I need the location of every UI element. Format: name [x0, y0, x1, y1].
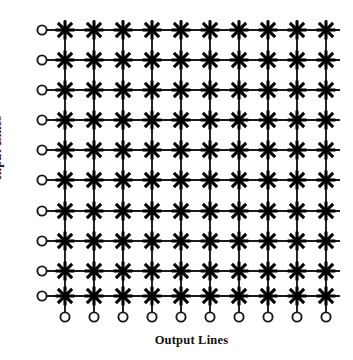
crosspoint-r7-c3[interactable] [114, 202, 133, 221]
crosspoint-r5-c2[interactable] [85, 141, 104, 160]
crosspoint-r7-c6[interactable] [201, 202, 220, 221]
crosspoint-r2-c10[interactable] [317, 51, 336, 70]
crosspoint-r9-c6[interactable] [201, 262, 220, 281]
input-terminal-2[interactable] [37, 55, 46, 64]
crosspoint-r2-c2[interactable] [85, 51, 104, 70]
crosspoint-r2-c7[interactable] [230, 51, 249, 70]
crosspoint-r9-c4[interactable] [143, 262, 162, 281]
crosspoint-r4-c7[interactable] [230, 111, 249, 130]
crosspoint-r6-c7[interactable] [230, 171, 249, 190]
crosspoint-r4-c4[interactable] [143, 111, 162, 130]
crosspoint-r1-c9[interactable] [288, 21, 307, 40]
crosspoint-r8-c1[interactable] [56, 232, 75, 251]
crosspoint-r3-c1[interactable] [56, 81, 75, 100]
crosspoint-r7-c4[interactable] [143, 202, 162, 221]
crosspoint-r9-c7[interactable] [230, 262, 249, 281]
crosspoint-r6-c1[interactable] [56, 171, 75, 190]
input-terminal-8[interactable] [37, 236, 46, 245]
crosspoint-r10-c1[interactable] [56, 287, 75, 306]
crosspoint-r1-c2[interactable] [85, 21, 104, 40]
crosspoint-r2-c1[interactable] [56, 51, 75, 70]
crosspoint-r3-c10[interactable] [317, 81, 336, 100]
crosspoint-r4-c2[interactable] [85, 111, 104, 130]
crosspoint-r3-c7[interactable] [230, 81, 249, 100]
crosspoint-r4-c8[interactable] [259, 111, 278, 130]
crosspoint-r7-c7[interactable] [230, 202, 249, 221]
crosspoint-r4-c5[interactable] [172, 111, 191, 130]
crosspoint-r1-c8[interactable] [259, 21, 278, 40]
crosspoint-r10-c2[interactable] [85, 287, 104, 306]
input-terminal-1[interactable] [37, 25, 46, 34]
crosspoint-r7-c5[interactable] [172, 202, 191, 221]
output-terminal-10[interactable] [321, 312, 330, 321]
crosspoint-r1-c4[interactable] [143, 21, 162, 40]
crosspoint-r2-c6[interactable] [201, 51, 220, 70]
crosspoint-r5-c9[interactable] [288, 141, 307, 160]
input-terminal-10[interactable] [37, 291, 46, 300]
input-terminal-3[interactable] [37, 85, 46, 94]
crosspoint-r7-c2[interactable] [85, 202, 104, 221]
crosspoint-r7-c1[interactable] [56, 202, 75, 221]
crosspoint-r8-c3[interactable] [114, 232, 133, 251]
input-terminal-4[interactable] [37, 115, 46, 124]
crosspoint-r8-c7[interactable] [230, 232, 249, 251]
crosspoint-r1-c10[interactable] [317, 21, 336, 40]
output-terminal-2[interactable] [89, 312, 98, 321]
crosspoint-r7-c9[interactable] [288, 202, 307, 221]
output-terminal-3[interactable] [118, 312, 127, 321]
input-terminal-5[interactable] [37, 145, 46, 154]
output-terminal-1[interactable] [60, 312, 69, 321]
crosspoint-r2-c4[interactable] [143, 51, 162, 70]
crosspoint-r3-c5[interactable] [172, 81, 191, 100]
crosspoint-r6-c2[interactable] [85, 171, 104, 190]
crosspoint-r3-c3[interactable] [114, 81, 133, 100]
crosspoint-r2-c3[interactable] [114, 51, 133, 70]
crosspoint-r3-c8[interactable] [259, 81, 278, 100]
crosspoint-r10-c6[interactable] [201, 287, 220, 306]
crosspoint-r5-c10[interactable] [317, 141, 336, 160]
crosspoint-r10-c4[interactable] [143, 287, 162, 306]
crosspoint-r6-c10[interactable] [317, 171, 336, 190]
crosspoint-r1-c3[interactable] [114, 21, 133, 40]
crosspoint-r3-c4[interactable] [143, 81, 162, 100]
crosspoint-r9-c10[interactable] [317, 262, 336, 281]
crosspoint-r1-c1[interactable] [56, 21, 75, 40]
crosspoint-r3-c9[interactable] [288, 81, 307, 100]
crosspoint-r6-c6[interactable] [201, 171, 220, 190]
crosspoint-r2-c8[interactable] [259, 51, 278, 70]
crosspoint-r8-c10[interactable] [317, 232, 336, 251]
crosspoint-r10-c7[interactable] [230, 287, 249, 306]
output-terminal-7[interactable] [234, 312, 243, 321]
crosspoint-r8-c8[interactable] [259, 232, 278, 251]
crosspoint-r10-c9[interactable] [288, 287, 307, 306]
crosspoint-r8-c4[interactable] [143, 232, 162, 251]
crosspoint-r5-c1[interactable] [56, 141, 75, 160]
crosspoint-r9-c9[interactable] [288, 262, 307, 281]
crosspoint-r8-c5[interactable] [172, 232, 191, 251]
crosspoint-r5-c3[interactable] [114, 141, 133, 160]
crosspoint-r3-c6[interactable] [201, 81, 220, 100]
input-terminal-6[interactable] [37, 175, 46, 184]
crosspoint-r1-c7[interactable] [230, 21, 249, 40]
crosspoint-r5-c5[interactable] [172, 141, 191, 160]
crosspoint-r4-c10[interactable] [317, 111, 336, 130]
crosspoint-r7-c10[interactable] [317, 202, 336, 221]
output-terminal-4[interactable] [147, 312, 156, 321]
crosspoint-r9-c5[interactable] [172, 262, 191, 281]
crosspoint-r4-c9[interactable] [288, 111, 307, 130]
crosspoint-r2-c9[interactable] [288, 51, 307, 70]
crosspoint-r5-c8[interactable] [259, 141, 278, 160]
output-terminal-5[interactable] [176, 312, 185, 321]
crosspoint-r4-c3[interactable] [114, 111, 133, 130]
crosspoint-r9-c1[interactable] [56, 262, 75, 281]
crosspoint-r8-c9[interactable] [288, 232, 307, 251]
crosspoint-r4-c6[interactable] [201, 111, 220, 130]
crosspoint-r2-c5[interactable] [172, 51, 191, 70]
crosspoint-r10-c10[interactable] [317, 287, 336, 306]
crosspoint-r5-c4[interactable] [143, 141, 162, 160]
crosspoint-r6-c4[interactable] [143, 171, 162, 190]
crosspoint-r7-c8[interactable] [259, 202, 278, 221]
crosspoint-r9-c3[interactable] [114, 262, 133, 281]
crosspoint-r5-c7[interactable] [230, 141, 249, 160]
crosspoint-r10-c5[interactable] [172, 287, 191, 306]
